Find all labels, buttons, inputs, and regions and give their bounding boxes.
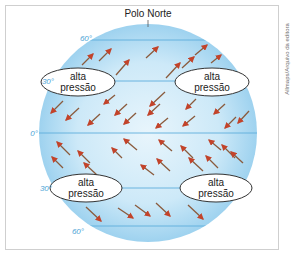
- latitude-label-30s: 30°: [40, 184, 53, 193]
- high-pressure-ne-line2: pressão: [194, 82, 230, 93]
- image-credit-text: Allmaps/Arquivo da editora: [284, 23, 290, 95]
- image-credit: Allmaps/Arquivo da editora: [283, 4, 291, 114]
- latitude-label-equator: 0°: [30, 129, 38, 138]
- high-pressure-nw-line2: pressão: [60, 82, 96, 93]
- high-pressure-se-line2: pressão: [198, 188, 234, 199]
- latitude-label-60s: 60°: [72, 227, 85, 236]
- latitude-label-60n: 60°: [80, 34, 93, 43]
- high-pressure-nw-line1: alta: [70, 71, 87, 82]
- latitude-label-30n: 30°: [42, 77, 55, 86]
- high-pressure-se-line1: alta: [208, 177, 225, 188]
- high-pressure-sw-line2: pressão: [68, 188, 104, 199]
- high-pressure-ne-line1: alta: [204, 71, 221, 82]
- high-pressure-sw-line1: alta: [78, 177, 95, 188]
- north-pole-label: Polo Norte: [124, 8, 172, 19]
- earth-wind-diagram: Polo Norte alta pressão alta pressão alt…: [0, 0, 291, 254]
